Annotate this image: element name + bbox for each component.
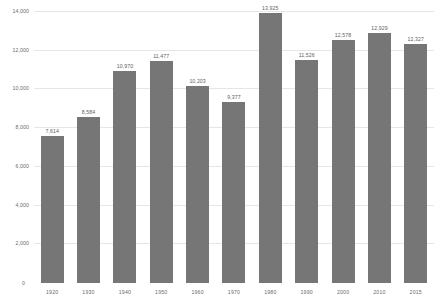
x-axis-category-label: 1950 <box>155 289 167 295</box>
bar[interactable]: 12,327 <box>404 44 427 283</box>
bar-slot: 12,3272015 <box>398 12 434 283</box>
bar-value-label: 8,584 <box>82 109 95 115</box>
x-axis-category-label: 2015 <box>410 289 422 295</box>
bar-slot: 12,9292010 <box>361 12 397 283</box>
x-axis-category-label: 1930 <box>82 289 94 295</box>
bar-chart: 0 2,0004,0006,0008,00010,00012,00014,000… <box>0 0 440 303</box>
x-axis-category-label: 1920 <box>46 289 58 295</box>
bar-value-label: 12,327 <box>408 36 424 42</box>
bar-slot: 10,9701940 <box>107 12 143 283</box>
bar[interactable]: 13,925 <box>259 13 282 283</box>
bar-slot: 11,5261990 <box>289 12 325 283</box>
bar[interactable]: 10,203 <box>186 86 209 284</box>
bar-slot: 9,3771970 <box>216 12 252 283</box>
bar-slot: 13,9251980 <box>252 12 288 283</box>
bar[interactable]: 7,614 <box>41 136 64 283</box>
x-axis-category-label: 1940 <box>119 289 131 295</box>
bar[interactable]: 11,526 <box>295 60 318 283</box>
bar[interactable]: 8,584 <box>77 117 100 283</box>
bar-value-label: 12,929 <box>371 25 387 31</box>
x-axis-category-label: 2000 <box>337 289 349 295</box>
x-axis-category-label: 1960 <box>191 289 203 295</box>
bar-value-label: 9,377 <box>227 94 240 100</box>
bar-slot: 7,6141920 <box>34 12 70 283</box>
plot-area: 2,0004,0006,0008,00010,00012,00014,000 7… <box>34 12 434 283</box>
y-axis-tick-label: 10,000 <box>13 85 29 91</box>
bar-value-label: 11,526 <box>299 52 315 58</box>
x-axis-category-label: 1970 <box>228 289 240 295</box>
bar[interactable]: 11,477 <box>150 61 173 283</box>
bar[interactable]: 10,970 <box>113 71 136 283</box>
y-axis-tick-label: 8,000 <box>16 124 29 130</box>
bar-value-label: 11,477 <box>153 53 169 59</box>
y-axis-zero-label: 0 <box>22 280 25 286</box>
bar-slot: 11,4771950 <box>143 12 179 283</box>
y-axis-tick-label: 14,000 <box>13 8 29 14</box>
bar-value-label: 12,578 <box>335 32 351 38</box>
bar-slot: 8,5841930 <box>70 12 106 283</box>
bar-series: 7,61419208,584193010,970194011,477195010… <box>34 12 434 283</box>
y-axis-tick-label: 6,000 <box>16 163 29 169</box>
x-axis-category-label: 1990 <box>301 289 313 295</box>
y-axis-tick-label: 2,000 <box>16 240 29 246</box>
bar[interactable]: 12,929 <box>368 33 391 283</box>
bar-value-label: 13,925 <box>262 5 278 11</box>
x-axis-category-label: 1980 <box>264 289 276 295</box>
y-axis-tick-label: 4,000 <box>16 202 29 208</box>
bar[interactable]: 9,377 <box>222 102 245 284</box>
x-axis-category-label: 2010 <box>373 289 385 295</box>
bar[interactable]: 12,578 <box>332 40 355 283</box>
bar-slot: 12,5782000 <box>325 12 361 283</box>
bar-value-label: 7,614 <box>45 128 58 134</box>
bar-slot: 10,2031960 <box>179 12 215 283</box>
y-axis-tick-label: 12,000 <box>13 47 29 53</box>
bar-value-label: 10,203 <box>189 78 205 84</box>
bar-value-label: 10,970 <box>117 63 133 69</box>
